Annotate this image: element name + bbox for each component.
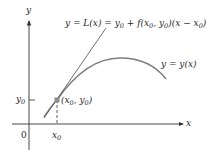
x-axis-label: x — [186, 119, 191, 128]
origin-label: 0 — [21, 131, 27, 140]
point-marker — [55, 98, 60, 103]
tangent-eq-part: , y — [153, 18, 164, 28]
linear-approximation-diagram: y x 0 y0 x0 (x0, y0) y = L(x) = y0 + f(x… — [0, 0, 215, 156]
point-label: (x0, y0) — [61, 96, 92, 105]
solution-curve — [44, 58, 166, 117]
tangent-eq-part: )(x − x — [168, 18, 198, 28]
curve-label: y = y(x) — [161, 60, 197, 69]
x0-label: x0 — [52, 131, 61, 140]
tangent-eq-part: ) — [203, 18, 207, 28]
y0-subscript: 0 — [21, 98, 25, 106]
x0-subscript: 0 — [57, 134, 61, 142]
tangent-eq-part: y = L(x) = y — [65, 18, 120, 28]
tangent-eq-part: + f(x — [124, 18, 149, 28]
y0-label: y0 — [16, 95, 25, 104]
tangent-equation-label: y = L(x) = y0 + f(x0, y0)(x − x0) — [65, 19, 206, 28]
point-paren-close: ) — [89, 95, 93, 105]
y-axis-label: y — [26, 6, 31, 15]
